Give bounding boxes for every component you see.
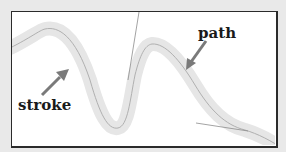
- path-stroke-diagram: [0, 0, 286, 152]
- stroke-label: stroke: [18, 98, 71, 113]
- path-arrow-icon: [186, 41, 206, 70]
- stroke-arrow-icon: [42, 69, 69, 95]
- diagram-canvas: path stroke: [0, 0, 286, 152]
- path-label: path: [198, 26, 236, 41]
